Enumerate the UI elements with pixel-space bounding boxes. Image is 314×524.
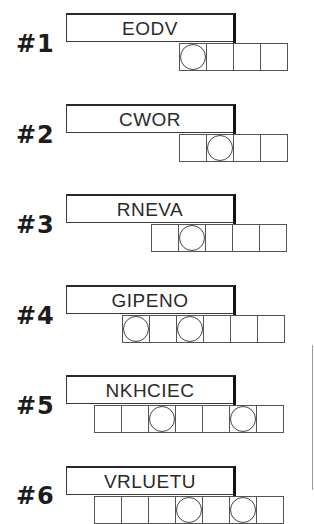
puzzle-number-label: #3: [16, 214, 62, 236]
scrambled-word-box: EODV: [66, 13, 236, 42]
answer-cell[interactable]: [256, 405, 284, 433]
puzzle-number-label: #6: [16, 485, 62, 507]
answer-cell-circled[interactable]: [206, 134, 234, 162]
answer-cell[interactable]: [121, 496, 149, 524]
answer-cell[interactable]: [149, 315, 177, 343]
answer-cell-circled[interactable]: [229, 496, 257, 524]
answer-cell-circled[interactable]: [178, 224, 206, 252]
scrambled-word-box: GIPENO: [66, 285, 236, 314]
answer-cell[interactable]: [202, 496, 230, 524]
answer-cell[interactable]: [260, 134, 288, 162]
answer-cell-circled[interactable]: [175, 496, 203, 524]
answer-cell[interactable]: [233, 43, 261, 71]
answer-cells: [179, 43, 288, 71]
answer-cell[interactable]: [179, 134, 207, 162]
answer-cell[interactable]: [206, 43, 234, 71]
answer-cell[interactable]: [94, 405, 122, 433]
puzzle-number-label: #5: [16, 395, 62, 417]
scrambled-word-box: CWOR: [66, 104, 236, 133]
puzzle-number-label: #4: [16, 305, 62, 327]
puzzle-6: #6 VRLUETU: [0, 453, 314, 506]
answer-cell-circled[interactable]: [148, 405, 176, 433]
answer-cell[interactable]: [121, 405, 149, 433]
answer-cell[interactable]: [202, 405, 230, 433]
answer-cell-circled[interactable]: [176, 315, 204, 343]
answer-cell-circled[interactable]: [229, 405, 257, 433]
answer-cell-circled[interactable]: [179, 43, 207, 71]
answer-cells: [94, 496, 284, 524]
answer-cell[interactable]: [257, 315, 285, 343]
puzzle-5: #5 NKHCIEC: [0, 362, 314, 452]
puzzle-3: #3 RNEVA: [0, 181, 314, 271]
answer-cell[interactable]: [148, 496, 176, 524]
answer-cell[interactable]: [232, 224, 260, 252]
answer-cell[interactable]: [205, 224, 233, 252]
puzzle-1: #1 EODV: [0, 0, 314, 90]
answer-cell[interactable]: [230, 315, 258, 343]
page-edge-divider: [312, 345, 313, 490]
answer-cell[interactable]: [175, 405, 203, 433]
answer-cells: [122, 315, 285, 343]
puzzle-4: #4 GIPENO: [0, 272, 314, 362]
puzzle-2: #2 CWOR: [0, 91, 314, 181]
answer-cell[interactable]: [260, 43, 288, 71]
answer-cell[interactable]: [203, 315, 231, 343]
scrambled-word-box: RNEVA: [66, 194, 236, 223]
answer-cells: [94, 405, 284, 433]
scrambled-word-box: VRLUETU: [66, 466, 236, 495]
puzzle-number-label: #2: [16, 124, 62, 146]
answer-cell-circled[interactable]: [122, 315, 150, 343]
answer-cells: [151, 224, 287, 252]
puzzle-number-label: #1: [16, 33, 62, 55]
answer-cell[interactable]: [94, 496, 122, 524]
answer-cell[interactable]: [259, 224, 287, 252]
answer-cells: [179, 134, 288, 162]
scrambled-word-box: NKHCIEC: [66, 375, 236, 404]
answer-cell[interactable]: [256, 496, 284, 524]
answer-cell[interactable]: [151, 224, 179, 252]
answer-cell[interactable]: [233, 134, 261, 162]
